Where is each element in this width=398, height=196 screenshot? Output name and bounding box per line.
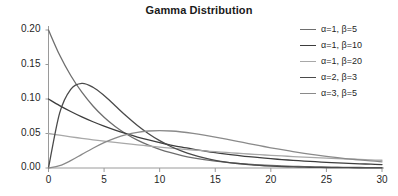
chart-legend: α=1, β=5α=1, β=10α=1, β=20α=2, β=3α=3, β… bbox=[300, 21, 396, 101]
legend-line-swatch bbox=[300, 61, 316, 62]
legend-line-swatch bbox=[300, 77, 316, 78]
legend-line-swatch bbox=[300, 93, 316, 94]
legend-label: α=2, β=3 bbox=[321, 72, 357, 82]
legend-line-swatch bbox=[300, 45, 316, 46]
legend-label: α=1, β=20 bbox=[321, 56, 362, 66]
y-tick-label: 0.05 bbox=[7, 127, 41, 138]
x-tick-label: 5 bbox=[92, 174, 116, 185]
legend-item-1[interactable]: α=1, β=10 bbox=[300, 37, 396, 53]
y-tick-label: 0.10 bbox=[7, 92, 41, 103]
y-tick-label: 0.20 bbox=[7, 23, 41, 34]
legend-label: α=1, β=5 bbox=[321, 24, 357, 34]
legend-item-4[interactable]: α=3, β=5 bbox=[300, 85, 396, 101]
y-tick-label: 0.15 bbox=[7, 58, 41, 69]
legend-item-3[interactable]: α=2, β=3 bbox=[300, 69, 396, 85]
series-line-1 bbox=[49, 99, 383, 165]
legend-label: α=3, β=5 bbox=[321, 88, 357, 98]
y-tick-label: 0.00 bbox=[7, 161, 41, 172]
x-tick-label: 30 bbox=[370, 174, 394, 185]
x-tick-label: 25 bbox=[314, 174, 338, 185]
gamma-distribution-chart: Gamma Distribution 0.000.050.100.150.20 … bbox=[0, 0, 398, 196]
legend-item-2[interactable]: α=1, β=20 bbox=[300, 53, 396, 69]
x-tick-label: 15 bbox=[203, 174, 227, 185]
x-tick-label: 10 bbox=[148, 174, 172, 185]
legend-label: α=1, β=10 bbox=[321, 40, 362, 50]
legend-item-0[interactable]: α=1, β=5 bbox=[300, 21, 396, 37]
x-tick-label: 20 bbox=[259, 174, 283, 185]
legend-line-swatch bbox=[300, 29, 316, 30]
x-tick-label: 0 bbox=[37, 174, 61, 185]
